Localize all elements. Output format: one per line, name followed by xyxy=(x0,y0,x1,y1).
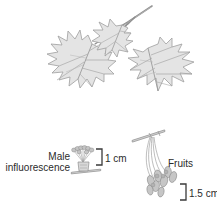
inflorescence-bud xyxy=(78,162,89,171)
label-fruits: Fruits xyxy=(168,158,193,169)
label-scale-1cm: 1 cm xyxy=(105,153,127,164)
label-male-inflorescence-line1: Male xyxy=(48,151,70,162)
botanical-figure xyxy=(0,0,217,208)
label-scale-15cm: 1.5 cm xyxy=(189,188,217,199)
label-male-inflorescence: Male influorescence xyxy=(2,151,70,173)
label-male-inflorescence-line2: influorescence xyxy=(6,162,70,173)
